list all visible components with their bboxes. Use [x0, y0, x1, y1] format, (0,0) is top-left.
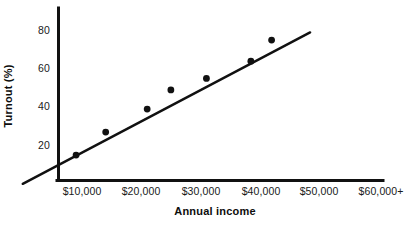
chart-container: 80 60 40 20 $10,000 $20,000 $30,000 $40,… [0, 0, 419, 227]
y-tick-label-60: 60 [24, 62, 50, 74]
y-axis-title: Turnout (%) [2, 64, 14, 127]
x-tick-label-60000plus: $60,000+ [359, 185, 404, 197]
x-tick-label-10000: $10,000 [63, 185, 102, 197]
data-point [268, 37, 275, 44]
x-tick-label-30000: $30,000 [182, 185, 221, 197]
x-axis-title: Annual income [174, 205, 255, 217]
data-point [73, 152, 80, 159]
trend-line [23, 32, 310, 183]
trend-line-segment [23, 32, 310, 183]
data-point [102, 129, 109, 136]
data-point [167, 87, 174, 94]
data-point [247, 58, 254, 65]
y-tick-label-80: 80 [24, 24, 50, 36]
data-point [144, 106, 151, 113]
x-tick-label-50000: $50,000 [300, 185, 339, 197]
x-tick-label-40000: $40,000 [242, 185, 281, 197]
y-tick-label-40: 40 [24, 100, 50, 112]
x-tick-label-20000: $20,000 [122, 185, 161, 197]
y-tick-label-20: 20 [24, 139, 50, 151]
data-point [203, 75, 210, 82]
